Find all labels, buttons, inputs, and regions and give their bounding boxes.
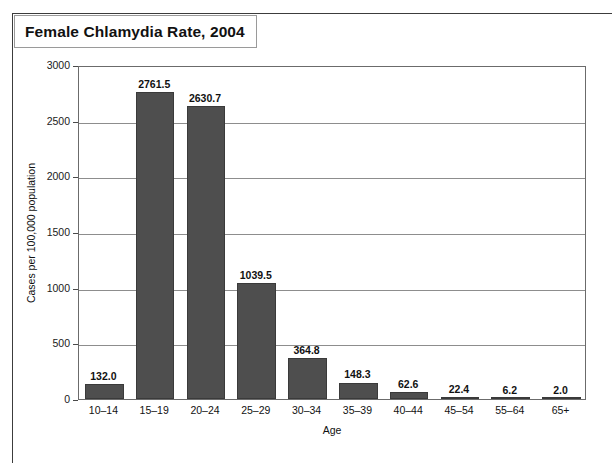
bar-value-label: 6.2 [484, 384, 535, 396]
x-tick-label: 15–19 [129, 404, 180, 416]
bar-value-label: 1039.5 [230, 269, 281, 281]
x-tick-label: 20–24 [180, 404, 231, 416]
bar-value-label: 364.8 [281, 344, 332, 356]
x-tick-label: 10–14 [78, 404, 129, 416]
y-tick-mark [73, 177, 78, 178]
bar-value-label: 132.0 [78, 370, 129, 382]
bar [288, 358, 327, 399]
x-tick-label: 65+ [535, 404, 586, 416]
y-tick-mark [73, 289, 78, 290]
bar [187, 106, 226, 399]
bar-value-label: 22.4 [434, 383, 485, 395]
y-tick-label: 2000 [36, 170, 70, 182]
y-tick-label: 0 [36, 393, 70, 405]
bar [339, 383, 378, 400]
bar [491, 397, 530, 399]
y-tick-label: 2500 [36, 115, 70, 127]
plot-area [78, 66, 586, 400]
y-tick-mark [73, 400, 78, 401]
y-axis-label: Cases per 100,000 population [24, 66, 38, 400]
y-tick-label: 1500 [36, 226, 70, 238]
y-tick-mark [73, 344, 78, 345]
bar-value-label: 2761.5 [129, 78, 180, 90]
x-tick-label: 40–44 [383, 404, 434, 416]
y-tick-label: 1000 [36, 282, 70, 294]
x-tick-label: 45–54 [434, 404, 485, 416]
bar [85, 384, 124, 399]
bar [542, 397, 581, 399]
y-tick-label: 500 [36, 337, 70, 349]
bar-value-label: 62.6 [383, 378, 434, 390]
y-tick-mark [73, 122, 78, 123]
x-tick-label: 25–29 [230, 404, 281, 416]
bar [441, 397, 480, 399]
bar [390, 392, 429, 399]
bar [237, 283, 276, 399]
bar [136, 92, 175, 399]
bar-value-label: 148.3 [332, 368, 383, 380]
y-tick-label: 3000 [36, 59, 70, 71]
x-tick-label: 55–64 [484, 404, 535, 416]
y-tick-mark [73, 66, 78, 67]
x-axis-label: Age [78, 424, 586, 436]
bar-value-label: 2630.7 [180, 92, 231, 104]
y-tick-mark [73, 233, 78, 234]
x-tick-label: 30–34 [281, 404, 332, 416]
bar-value-label: 2.0 [535, 384, 586, 396]
x-tick-label: 35–39 [332, 404, 383, 416]
